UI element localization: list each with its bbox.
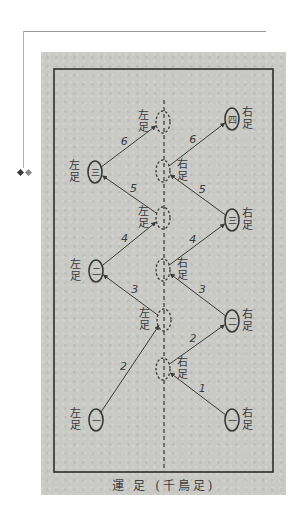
- foot-label: 右: [242, 206, 253, 220]
- foot-label: 足: [177, 269, 188, 282]
- foot-ellipse: [156, 111, 170, 133]
- foot-label: 足: [242, 118, 253, 131]
- footprint-l3: 三左足: [69, 159, 103, 184]
- foot-label: 足: [242, 219, 253, 232]
- foot-label: 足: [242, 419, 253, 432]
- footprint-r4: 四右足: [225, 105, 253, 131]
- footprint-c1: 右足: [156, 355, 188, 381]
- footprint-r3: 三右足: [225, 206, 253, 232]
- footprint-c4: 左足: [138, 205, 171, 230]
- footprints: 一左足一右足二右足二左足三右足三左足四右足右足左足右足左足右足左足: [69, 105, 253, 432]
- foot-ellipse: [156, 160, 170, 182]
- step-number: 2: [189, 332, 196, 345]
- footwork-diagram: 12233445566 一左足一右足二右足二左足三右足三左足四右足右足左足右足左…: [0, 0, 303, 525]
- foot-label: 足: [138, 121, 149, 134]
- footprint-c3: 右足: [156, 256, 188, 282]
- diagram-caption: 運 足 (千鳥足): [41, 476, 286, 493]
- foot-label: 右: [242, 406, 253, 420]
- step-number: 4: [121, 232, 128, 245]
- step-number: 1: [199, 382, 206, 395]
- footprint-c6: 左足: [138, 109, 171, 134]
- foot-label: 右: [177, 256, 188, 270]
- footprint-l1: 一左足: [70, 407, 104, 432]
- step-number: 6: [121, 135, 128, 148]
- foot-label: 足: [70, 419, 81, 432]
- foot-label: 足: [177, 170, 188, 183]
- footprint-c2: 左足: [139, 307, 172, 332]
- step-number: 5: [130, 182, 137, 195]
- foot-ellipse: [156, 207, 170, 229]
- foot-order-glyph: 一: [228, 416, 237, 426]
- foot-label: 足: [242, 320, 253, 333]
- foot-label: 右: [242, 105, 253, 119]
- step-number: 3: [199, 283, 206, 296]
- foot-order-glyph: 四: [228, 115, 237, 125]
- foot-order-glyph: 三: [91, 168, 100, 178]
- foot-ellipse: [156, 259, 170, 281]
- foot-label: 足: [139, 319, 150, 332]
- step-number: 4: [189, 233, 196, 246]
- step-number: 6: [189, 133, 196, 146]
- foot-label: 足: [70, 270, 81, 283]
- foot-order-glyph: 二: [228, 317, 237, 327]
- foot-label: 右: [177, 157, 188, 171]
- footprint-c5: 右足: [156, 157, 188, 183]
- footprint-l2: 二左足: [70, 258, 104, 283]
- step-number: 2: [120, 360, 127, 373]
- foot-label: 右: [177, 355, 188, 369]
- step-arrow: [100, 325, 159, 413]
- foot-label: 足: [177, 368, 188, 381]
- footprint-r1: 一右足: [225, 406, 253, 432]
- foot-order-glyph: 三: [228, 216, 237, 226]
- foot-label: 足: [138, 217, 149, 230]
- step-number: 3: [131, 283, 138, 296]
- step-arrows: 12233445566: [100, 123, 226, 415]
- foot-order-glyph: 一: [92, 416, 101, 426]
- foot-label: 右: [242, 307, 253, 321]
- foot-ellipse: [156, 358, 170, 380]
- step-number: 5: [199, 183, 206, 196]
- footprint-r2: 二右足: [225, 307, 253, 333]
- foot-label: 足: [69, 171, 80, 184]
- foot-order-glyph: 二: [92, 267, 101, 277]
